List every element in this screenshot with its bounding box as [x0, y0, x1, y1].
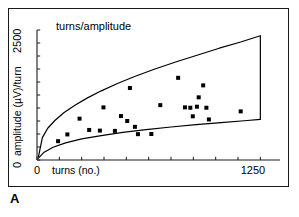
scatter-point — [98, 129, 102, 133]
scatter-point — [207, 117, 211, 121]
scatter-point — [197, 95, 201, 99]
scatter-point — [133, 125, 137, 129]
scatter-point — [113, 129, 117, 133]
scatter-point — [188, 106, 192, 110]
y-axis-title: amplitude (µV)/turn — [11, 66, 23, 156]
scatter-point — [195, 105, 199, 109]
scatter-point — [65, 132, 69, 136]
scatter-point — [136, 132, 140, 136]
chart-title: turns/amplitude — [56, 20, 131, 32]
scatter-point — [119, 114, 123, 118]
scatter-point — [239, 109, 243, 113]
scatter-point — [125, 119, 129, 123]
y-tick-label-min: 0 — [11, 162, 23, 168]
scatter-point — [56, 139, 60, 143]
turns-amplitude-scatter-chart: amplitude (µV)/turn 0 2500 turns/amplitu… — [8, 8, 289, 187]
panel-letter-label: A — [10, 192, 19, 206]
upper-envelope-curve — [38, 36, 260, 157]
scatter-point — [176, 76, 180, 80]
scatter-point — [204, 106, 208, 110]
scatter-point-group — [56, 76, 243, 143]
y-tick-label-max: 2500 — [11, 29, 23, 53]
x-axis-title: turns (no.) — [52, 164, 100, 176]
x-tick-label-max: 1250 — [241, 164, 265, 176]
scatter-point — [158, 103, 162, 107]
scatter-point — [87, 128, 91, 132]
scatter-point — [78, 117, 82, 121]
scatter-point — [201, 83, 205, 87]
scatter-point — [183, 105, 187, 109]
lower-envelope-curve — [38, 119, 260, 158]
figure-panel-a: amplitude (µV)/turn 0 2500 turns/amplitu… — [0, 0, 299, 217]
scatter-point — [101, 105, 105, 109]
scatter-point — [149, 132, 153, 136]
scatter-point — [128, 86, 132, 90]
scatter-point — [191, 114, 195, 118]
x-tick-label-min: 0 — [34, 164, 40, 176]
